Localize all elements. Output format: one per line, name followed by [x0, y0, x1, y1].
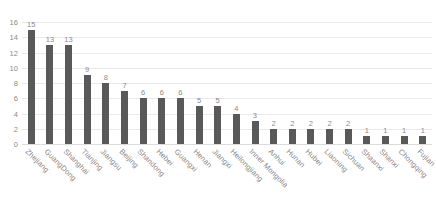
bar-value-label: 4 [234, 104, 238, 113]
x-axis-slot: Sichuan [339, 146, 358, 212]
bar-value-label: 2 [309, 119, 313, 128]
x-axis-slot: Heilongjiang [227, 146, 246, 212]
bar-value-label: 2 [290, 119, 294, 128]
x-axis-slot: Liaoning [320, 146, 339, 212]
bar-slot: 1 [395, 22, 414, 144]
x-axis-slot: Tianjing [78, 146, 97, 212]
bar-value-label: 5 [197, 96, 201, 105]
bar-value-label: 2 [327, 119, 331, 128]
bar-slot: 7 [115, 22, 134, 144]
bar-value-label: 13 [64, 35, 73, 44]
y-axis-tick-label: 12 [9, 48, 18, 57]
bar-slot: 2 [264, 22, 283, 144]
bar-slot: 6 [134, 22, 153, 144]
x-axis-tick-label: Fujian [415, 147, 436, 168]
x-axis-slot: Shaanxi [358, 146, 377, 212]
bar-value-label: 9 [85, 65, 89, 74]
x-axis-slot: Hebei [152, 146, 171, 212]
y-axis-tick-label: 0 [14, 140, 18, 149]
bar-value-label: 1 [365, 126, 369, 135]
bar-slot: 1 [413, 22, 432, 144]
bar-value-label: 1 [421, 126, 425, 135]
x-axis-slot: Chongqing [395, 146, 414, 212]
x-axis-slot: Shanxi [376, 146, 395, 212]
x-axis-slot: GuangDong [41, 146, 60, 212]
x-axis-slot: Inner Mongolia [246, 146, 265, 212]
bar-value-label: 8 [104, 73, 108, 82]
x-axis-slot: Fujian [413, 146, 432, 212]
bar-slot: 5 [190, 22, 209, 144]
bar-value-label: 15 [27, 20, 36, 29]
bar-slot: 2 [283, 22, 302, 144]
x-axis-slot: Hunan [283, 146, 302, 212]
bar-value-label: 7 [122, 81, 126, 90]
bar [345, 129, 352, 144]
bar [289, 129, 296, 144]
plot-area: 1513139876665543222221111 [22, 22, 432, 144]
bar-slot: 3 [246, 22, 265, 144]
bar-value-label: 6 [178, 88, 182, 97]
x-axis-slot: Henan [190, 146, 209, 212]
bar-slot: 6 [171, 22, 190, 144]
bar [121, 91, 128, 144]
bar [214, 106, 221, 144]
x-axis: ZhejiangGuangDongShanghaiTianjingJiangsu… [22, 146, 432, 212]
bar [233, 114, 240, 145]
y-axis-tick-label: 10 [9, 63, 18, 72]
y-axis-tick-label: 6 [14, 94, 18, 103]
bar [270, 129, 277, 144]
bar-slot: 13 [59, 22, 78, 144]
axis-baseline [22, 144, 432, 145]
bar-series: 1513139876665543222221111 [22, 22, 432, 144]
bar-value-label: 2 [346, 119, 350, 128]
bar-slot: 13 [41, 22, 60, 144]
bar [326, 129, 333, 144]
bar-slot: 2 [339, 22, 358, 144]
bar [140, 98, 147, 144]
y-axis-tick-label: 16 [9, 18, 18, 27]
y-axis-tick-label: 8 [14, 79, 18, 88]
x-axis-slot: Beijing [115, 146, 134, 212]
bar-slot: 2 [302, 22, 321, 144]
bar-slot: 5 [208, 22, 227, 144]
bar [401, 136, 408, 144]
bar [28, 30, 35, 144]
x-axis-slot: Anhui [264, 146, 283, 212]
x-axis-slot: Shandong [134, 146, 153, 212]
bar-slot: 6 [152, 22, 171, 144]
bar [84, 75, 91, 144]
bar-value-label: 13 [46, 35, 55, 44]
bar [363, 136, 370, 144]
bar [158, 98, 165, 144]
bar [102, 83, 109, 144]
x-axis-slot: Jiangxi [208, 146, 227, 212]
x-axis-slot: Shanghai [59, 146, 78, 212]
bar-slot: 2 [320, 22, 339, 144]
bar-slot: 8 [97, 22, 116, 144]
bar [419, 136, 426, 144]
bar-value-label: 5 [216, 96, 220, 105]
bar-slot: 9 [78, 22, 97, 144]
bar-value-label: 6 [141, 88, 145, 97]
bar-slot: 1 [376, 22, 395, 144]
x-axis-slot: Hubei [302, 146, 321, 212]
bar-slot: 4 [227, 22, 246, 144]
bar [196, 106, 203, 144]
bar [65, 45, 72, 144]
bar [252, 121, 259, 144]
bar-value-label: 3 [253, 111, 257, 120]
bar-value-label: 6 [160, 88, 164, 97]
y-axis: 0246810121416 [0, 22, 20, 144]
bar [177, 98, 184, 144]
y-axis-tick-label: 14 [9, 33, 18, 42]
x-axis-slot: Guangxi [171, 146, 190, 212]
bar-slot: 1 [358, 22, 377, 144]
y-axis-tick-label: 4 [14, 109, 18, 118]
x-axis-slot: Zhejiang [22, 146, 41, 212]
bar-value-label: 2 [272, 119, 276, 128]
y-axis-tick-label: 2 [14, 124, 18, 133]
bar-value-label: 1 [383, 126, 387, 135]
bar [307, 129, 314, 144]
bar-chart: 0246810121416 1513139876665543222221111 … [0, 0, 436, 215]
bar-value-label: 1 [402, 126, 406, 135]
